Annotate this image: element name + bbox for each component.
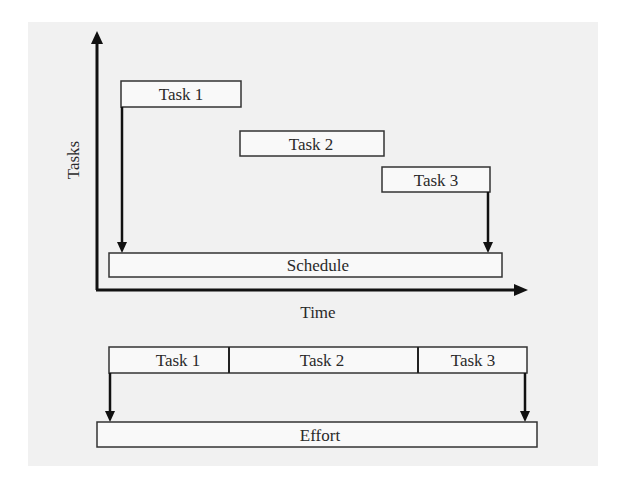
- y-axis-arrow-icon: [91, 31, 103, 44]
- effort-box: Effort: [97, 422, 537, 447]
- upper-task-1-label: Task 1: [159, 85, 204, 104]
- x-axis-label: Time: [300, 303, 335, 322]
- x-axis: [96, 284, 528, 296]
- schedule-box: Schedule: [109, 253, 502, 277]
- upper-task-3: Task 3: [382, 167, 490, 192]
- effort-start-arrow: [105, 373, 115, 422]
- lower-task-3-label: Task 3: [451, 351, 496, 370]
- y-axis: [91, 31, 103, 290]
- lower-task-row: Task 1 Task 2 Task 3: [109, 347, 527, 373]
- schedule-label: Schedule: [287, 256, 349, 275]
- arrow-down-icon: [483, 242, 493, 253]
- upper-task-2: Task 2: [240, 131, 384, 156]
- arrow-down-icon: [105, 411, 115, 422]
- x-axis-arrow-icon: [514, 284, 528, 296]
- schedule-effort-diagram: Tasks Time Task 1 Task 2 Task 3 Schedule…: [0, 0, 625, 484]
- schedule-end-arrow: [483, 192, 493, 253]
- arrow-down-icon: [520, 411, 530, 422]
- effort-end-arrow: [520, 373, 530, 422]
- effort-label: Effort: [300, 426, 341, 445]
- lower-task-2-label: Task 2: [300, 351, 345, 370]
- upper-task-3-label: Task 3: [414, 171, 459, 190]
- y-axis-label: Tasks: [64, 141, 83, 179]
- schedule-start-arrow: [117, 107, 127, 253]
- lower-task-1-label: Task 1: [156, 351, 201, 370]
- upper-task-2-label: Task 2: [289, 135, 334, 154]
- arrow-down-icon: [117, 242, 127, 253]
- upper-task-1: Task 1: [121, 81, 241, 107]
